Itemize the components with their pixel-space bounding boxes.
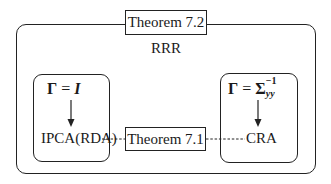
sigma-symbol: Σ bbox=[255, 80, 265, 97]
yy-subscript: yy bbox=[266, 88, 275, 99]
identity-symbol: I bbox=[74, 80, 80, 97]
right-arrow-head-icon bbox=[255, 119, 262, 127]
left-arrow-head-icon bbox=[68, 119, 75, 127]
gamma-equals-identity-formula: Γ = I bbox=[47, 80, 80, 98]
theorem-7-2-box: Theorem 7.2 bbox=[125, 10, 207, 35]
inverse-superscript: −1 bbox=[266, 75, 277, 86]
theorem-7-1-box: Theorem 7.1 bbox=[125, 127, 206, 151]
equals-sign: = bbox=[57, 80, 74, 97]
gamma-symbol: Γ bbox=[47, 80, 57, 97]
rrr-label: RRR bbox=[150, 40, 182, 57]
cra-label: CRA bbox=[246, 130, 277, 147]
equals-sign: = bbox=[238, 80, 255, 97]
gamma-equals-sigma-inverse-formula: Γ = Σ−1yy bbox=[228, 80, 284, 98]
ipca-rda-label: IPCA(RDA) bbox=[41, 130, 117, 147]
gamma-symbol: Γ bbox=[228, 80, 238, 97]
